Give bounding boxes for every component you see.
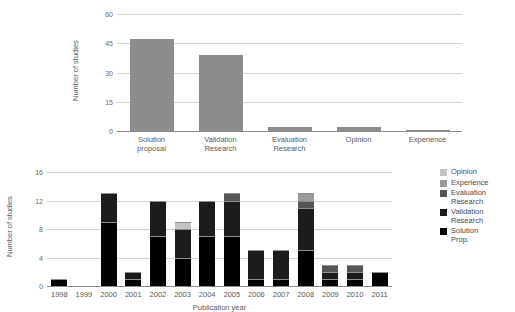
bar: [199, 55, 243, 131]
y-axis-tick-label: 16: [35, 169, 43, 176]
stacked-bar: [372, 272, 388, 286]
stacked-bar-segment: [224, 201, 240, 237]
stacked-bar-segment: [347, 272, 363, 279]
legend-item[interactable]: Solution Prop.: [440, 227, 515, 244]
gridline: [47, 258, 392, 259]
y-axis-tick-label: 8: [39, 226, 43, 233]
stacked-bar-segment: [175, 258, 191, 287]
stacked-bar-segment: [224, 193, 240, 200]
stacked-bar: [125, 272, 141, 286]
y-axis-tick-label: 4: [39, 254, 43, 261]
stacked-bar-segment: [298, 250, 314, 286]
y-axis-tick-label: 45: [105, 40, 113, 47]
stacked-bar-segment: [224, 236, 240, 286]
legend-swatch-icon: [440, 228, 447, 235]
stacked-bar: [298, 193, 314, 286]
stacked-bar-segment: [347, 279, 363, 286]
y-axis-tick-label: 15: [105, 98, 113, 105]
legend-item-label: Solution Prop.: [451, 227, 478, 244]
stacked-bar-segment: [322, 265, 338, 272]
stacked-bar-segment: [101, 193, 117, 222]
chart-studies-per-year: Number of studies 0481216199819992000200…: [0, 158, 515, 311]
legend-item[interactable]: Validation Research: [440, 208, 515, 225]
plot-area-top: 015304560Solution proposalValidation Res…: [117, 14, 462, 131]
stacked-bar-segment: [273, 279, 289, 286]
gridline: [47, 201, 392, 202]
stacked-bar-segment: [199, 201, 215, 237]
stacked-bar-segment: [248, 250, 264, 279]
x-axis-title-bottom: Publication year: [47, 304, 392, 312]
stacked-bar: [175, 222, 191, 286]
y-axis-title-top: Number of studies: [72, 40, 80, 101]
legend-item[interactable]: Evaluation Research: [440, 189, 515, 206]
legend-item-label: Validation Research: [451, 208, 483, 225]
stacked-bar: [347, 265, 363, 286]
legend-item-label: Experience: [451, 179, 489, 188]
x-axis-line: [47, 286, 392, 287]
y-axis-title-bottom: Number of studies: [6, 196, 14, 257]
stacked-bar: [322, 265, 338, 286]
legend-item[interactable]: Experience: [440, 179, 515, 188]
stacked-bar: [248, 250, 264, 286]
stacked-bar: [199, 201, 215, 287]
stacked-bar: [51, 279, 67, 286]
y-axis-tick-label: 60: [105, 11, 113, 18]
stacked-bar-segment: [248, 279, 264, 286]
stacked-bar-segment: [101, 222, 117, 286]
legend: OpinionExperienceEvaluation ResearchVali…: [440, 168, 515, 246]
x-axis-line: [117, 131, 462, 132]
gridline: [47, 229, 392, 230]
stacked-bar-segment: [273, 250, 289, 279]
stacked-bar-segment: [175, 229, 191, 258]
bar: [337, 127, 381, 131]
bar: [130, 39, 174, 131]
legend-item-label: Evaluation Research: [451, 189, 486, 206]
stacked-bar: [101, 193, 117, 286]
stacked-bar-segment: [51, 279, 67, 286]
legend-item-label: Opinion: [451, 168, 477, 177]
legend-swatch-icon: [440, 190, 447, 197]
stacked-bar-segment: [125, 272, 141, 279]
legend-swatch-icon: [440, 169, 447, 176]
x-axis-tick-label: Experience: [386, 135, 469, 144]
stacked-bar-segment: [298, 201, 314, 208]
stacked-bar-segment: [322, 272, 338, 279]
chart-research-type-totals: Number of studies 015304560Solution prop…: [0, 0, 515, 158]
legend-swatch-icon: [440, 209, 447, 216]
legend-item[interactable]: Opinion: [440, 168, 515, 177]
y-axis-tick-label: 12: [35, 197, 43, 204]
stacked-bar-segment: [298, 208, 314, 251]
stacked-bar-segment: [175, 222, 191, 229]
stacked-bar-segment: [150, 236, 166, 286]
stacked-bar-segment: [372, 272, 388, 286]
plot-area-bottom: 0481216199819992000200120022003200420052…: [47, 172, 392, 286]
x-axis-tick-label: 2011: [360, 290, 400, 299]
stacked-bar-segment: [125, 279, 141, 286]
gridline: [117, 14, 462, 15]
stacked-bar: [150, 201, 166, 287]
stacked-bar-segment: [298, 193, 314, 200]
stacked-bar: [273, 250, 289, 286]
stacked-bar-segment: [199, 236, 215, 286]
y-axis-tick-label: 0: [39, 283, 43, 290]
stacked-bar-segment: [150, 201, 166, 237]
y-axis-tick-label: 0: [109, 128, 113, 135]
gridline: [47, 172, 392, 173]
bar: [406, 130, 450, 131]
stacked-bar-segment: [347, 265, 363, 272]
legend-swatch-icon: [440, 180, 447, 187]
bar: [268, 127, 312, 131]
stacked-bar: [224, 193, 240, 286]
y-axis-tick-label: 30: [105, 69, 113, 76]
stacked-bar-segment: [322, 279, 338, 286]
